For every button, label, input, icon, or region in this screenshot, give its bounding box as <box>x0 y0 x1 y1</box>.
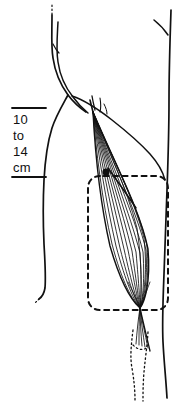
measurement-label: 10 to 14 cm <box>13 112 53 176</box>
measurement-unit: cm <box>13 160 53 176</box>
measurement-value-bottom: 14 <box>13 144 53 160</box>
injection-point-marker <box>102 168 109 175</box>
measurement-value-top: 10 <box>13 112 53 128</box>
measurement-connector: to <box>13 128 53 144</box>
anatomical-figure: 10 to 14 cm <box>0 0 193 408</box>
figure-canvas <box>0 0 193 408</box>
